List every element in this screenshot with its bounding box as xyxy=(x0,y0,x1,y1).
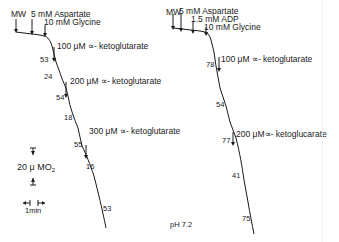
right-rate-5: 75 xyxy=(242,215,250,223)
left-rate-2: 24 xyxy=(44,73,52,81)
right-rate-3: 77 xyxy=(222,137,230,145)
left-rate-7: 53 xyxy=(103,205,111,213)
left-rate-5: 55 xyxy=(74,141,82,149)
trace-plot xyxy=(0,0,339,242)
left-glycine-label: 10 mM Glycine xyxy=(44,18,101,27)
vertical-scale-label: 20 μ MO2 xyxy=(17,163,55,173)
oxygraph-figure: MW 5 mM Aspartate 10 mM Glycine 100 μM ∝… xyxy=(0,0,339,242)
scan-edge xyxy=(322,0,323,242)
right-akg200-label: 200 μM∝- ketoglucarate xyxy=(236,130,327,139)
left-rate-6: 16 xyxy=(86,163,94,171)
horizontal-scale-label: 1min xyxy=(25,207,41,215)
left-rate-1: 53 xyxy=(40,56,48,64)
right-rate-2: 54 xyxy=(216,101,224,109)
left-mw-label: MW xyxy=(11,10,26,19)
right-rate-4: 41 xyxy=(232,172,240,180)
right-glycine-label: 10 mM Glycine xyxy=(204,23,261,32)
left-akg300-label: 300 μM ∝- ketoglutarate xyxy=(89,127,180,136)
right-akg100-label: 100 μM ∝- ketoglutarate xyxy=(221,55,312,64)
left-rate-3: 54 xyxy=(56,94,64,102)
ph-label: pH 7.2 xyxy=(170,221,192,229)
right-rate-1: 78 xyxy=(206,61,214,69)
left-akg200-label: 200 μM ∝- ketoglutarate xyxy=(70,77,161,86)
left-rate-4: 18 xyxy=(64,114,72,122)
left-akg100-label: 100 μM ∝- ketoglutarate xyxy=(57,42,148,51)
